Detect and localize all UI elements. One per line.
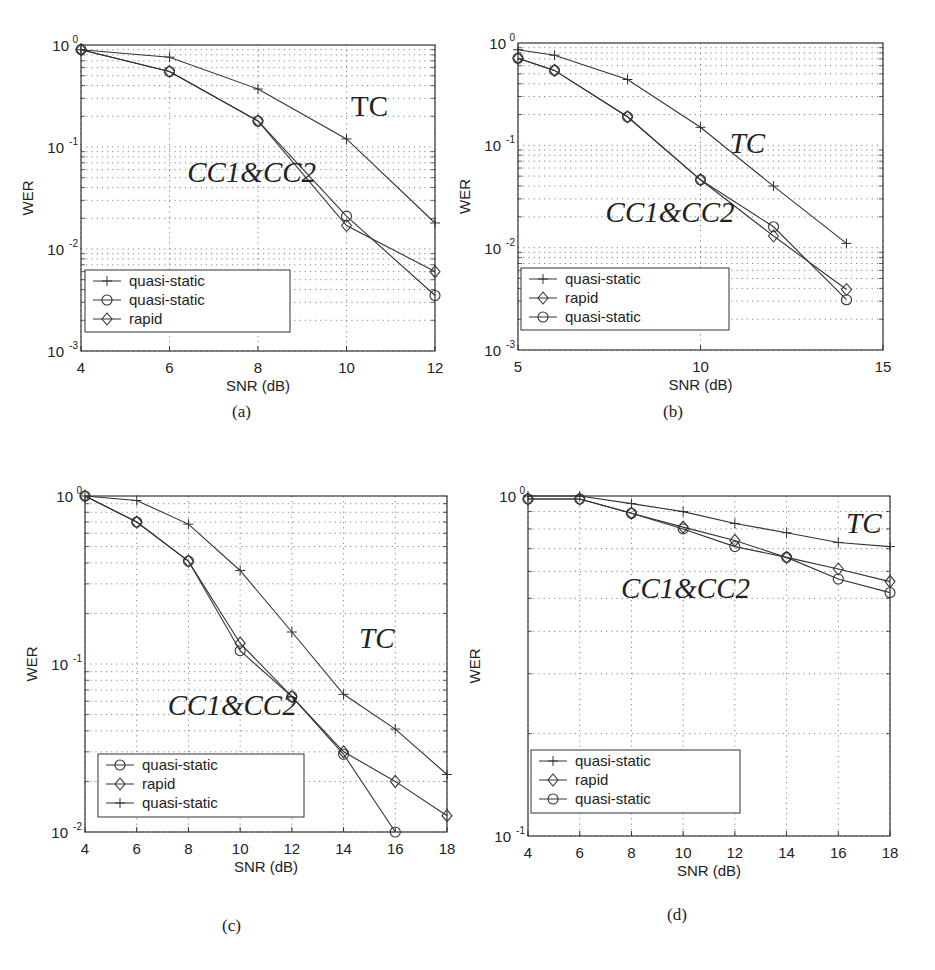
y-tick-exponent: 0 (509, 32, 515, 43)
y-tick-label: 10 (484, 240, 501, 257)
legend-label: quasi-static (565, 308, 641, 325)
legend-label: quasi-static (565, 270, 641, 287)
annotation-cc1-cc2: CC1&CC2 (187, 156, 316, 188)
y-tick-label: 10 (489, 35, 506, 52)
diamond-marker (842, 284, 852, 296)
y-tick-exponent: -1 (516, 825, 525, 836)
series-line-circle (518, 58, 847, 300)
legend-label: rapid (575, 771, 608, 788)
x-tick-label: 10 (338, 359, 355, 376)
y-tick-exponent: -2 (506, 237, 515, 248)
y-axis-label: WER (466, 648, 483, 683)
x-tick-label: 6 (576, 844, 584, 861)
x-tick-label: 12 (727, 844, 744, 861)
y-tick-exponent: -1 (69, 136, 78, 147)
series-line-diamond (518, 58, 847, 289)
legend-label: quasi-static (129, 291, 205, 308)
x-tick-label: 12 (427, 359, 444, 376)
legend-label: quasi-static (575, 752, 651, 769)
x-tick-label: 4 (524, 844, 532, 861)
legend-label: rapid (565, 289, 598, 306)
annotation-tc: TC (359, 622, 395, 654)
legend-label: quasi-static (129, 272, 205, 289)
legend: quasi-staticrapidquasi-static (521, 268, 729, 330)
x-axis-label: SNR (dB) (226, 377, 290, 394)
legend: quasi-staticquasi-staticrapid (85, 270, 290, 332)
figure-canvas: 468101210010-110-210-3SNR (dB)WERTCCC1&C… (0, 0, 935, 970)
y-tick-label: 10 (47, 139, 64, 156)
annotation-cc1-cc2: CC1&CC2 (606, 196, 735, 228)
y-tick-exponent: 0 (72, 34, 78, 45)
y-axis-label: WER (456, 179, 473, 214)
y-tick-label: 10 (51, 656, 68, 673)
annotation-tc: TC (730, 127, 766, 159)
x-tick-label: 15 (875, 358, 892, 375)
y-axis-label: WER (19, 180, 36, 215)
y-tick-label: 10 (47, 343, 64, 360)
chart-panel-c: 468101214161810010-110-2SNR (dB)WERTCCC1… (23, 485, 455, 875)
y-tick-label: 10 (56, 488, 73, 505)
x-tick-label: 10 (692, 358, 709, 375)
x-tick-label: 16 (387, 840, 404, 857)
legend-label: rapid (129, 310, 162, 327)
x-tick-label: 5 (514, 358, 522, 375)
y-tick-label: 10 (484, 137, 501, 154)
x-axis-label: SNR (dB) (677, 862, 741, 879)
legend-label: quasi-static (142, 794, 218, 811)
y-tick-exponent: -1 (73, 653, 82, 664)
x-tick-label: 18 (439, 840, 456, 857)
chart-panel-a: 468101210010-110-210-3SNR (dB)WERTCCC1&C… (19, 34, 443, 394)
y-tick-exponent: -3 (69, 340, 78, 351)
caption-b: (b) (663, 402, 683, 422)
x-tick-label: 8 (184, 840, 192, 857)
x-axis-label: SNR (dB) (668, 376, 732, 393)
y-tick-label: 10 (484, 342, 501, 359)
x-tick-label: 4 (77, 359, 85, 376)
x-tick-label: 16 (830, 844, 847, 861)
legend-label: rapid (142, 775, 175, 792)
y-tick-label: 10 (51, 824, 68, 841)
y-tick-exponent: 0 (519, 485, 525, 496)
y-tick-label: 10 (47, 241, 64, 258)
legend: quasi-staticrapidquasi-static (98, 754, 304, 817)
x-tick-label: 10 (675, 844, 692, 861)
chart-panel-d: 468101214161810010-1SNR (dB)WERTCCC1&CC2… (466, 485, 898, 879)
y-tick-label: 10 (494, 828, 511, 845)
y-tick-exponent: -2 (69, 238, 78, 249)
x-tick-label: 12 (284, 840, 301, 857)
y-tick-label: 10 (52, 37, 69, 54)
legend-label: quasi-static (142, 756, 218, 773)
chart-panel-b: 5101510010-110-210-3SNR (dB)WERTCCC1&CC2… (456, 32, 891, 393)
x-tick-label: 4 (81, 840, 89, 857)
y-tick-label: 10 (499, 488, 516, 505)
caption-a: (a) (232, 402, 251, 422)
legend: quasi-staticrapidquasi-static (531, 750, 740, 813)
x-tick-label: 18 (882, 844, 899, 861)
annotation-cc1-cc2: CC1&CC2 (621, 572, 750, 604)
x-axis-label: SNR (dB) (234, 858, 298, 875)
x-tick-label: 6 (133, 840, 141, 857)
x-tick-label: 14 (335, 840, 352, 857)
annotation-tc: TC (846, 507, 882, 539)
x-tick-label: 10 (232, 840, 249, 857)
annotation-cc1-cc2: CC1&CC2 (168, 689, 297, 721)
caption-c: (c) (222, 916, 241, 936)
x-tick-label: 8 (627, 844, 635, 861)
x-tick-label: 8 (254, 359, 262, 376)
annotation-tc: TC (351, 90, 388, 122)
caption-d: (d) (667, 905, 687, 925)
y-tick-exponent: -2 (73, 821, 82, 832)
y-axis-label: WER (23, 646, 40, 681)
x-tick-label: 14 (778, 844, 795, 861)
y-tick-exponent: -3 (506, 339, 515, 350)
y-tick-exponent: -1 (506, 134, 515, 145)
x-tick-label: 6 (165, 359, 173, 376)
legend-label: quasi-static (575, 790, 651, 807)
